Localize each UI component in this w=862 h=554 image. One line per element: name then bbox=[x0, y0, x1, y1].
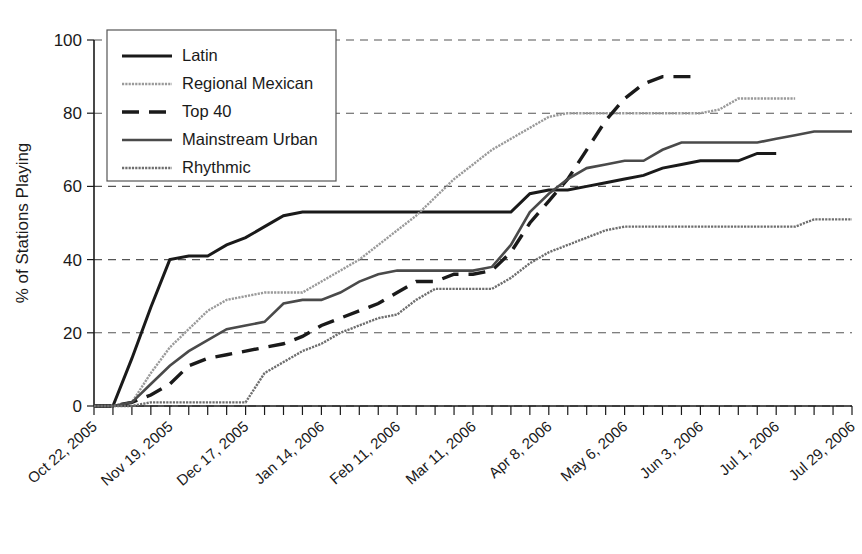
x-tick-label: May 6, 2006 bbox=[557, 417, 630, 484]
legend-label: Rhythmic bbox=[182, 158, 251, 176]
x-tick-label: Jun 3, 2006 bbox=[636, 417, 706, 481]
series-line-rhythmic bbox=[94, 219, 852, 406]
legend-label: Regional Mexican bbox=[182, 74, 313, 92]
x-tick-label: Oct 22, 2005 bbox=[24, 417, 100, 486]
line-chart: 020406080100 Oct 22, 2005Nov 19, 2005Dec… bbox=[0, 0, 862, 554]
y-tick-label: 60 bbox=[63, 177, 82, 196]
series-line-latin bbox=[94, 153, 776, 406]
legend-label: Top 40 bbox=[182, 102, 232, 120]
x-tick-label: Jul 1, 2006 bbox=[716, 417, 783, 478]
chart-container: 020406080100 Oct 22, 2005Nov 19, 2005Dec… bbox=[0, 0, 862, 554]
y-tick-label: 40 bbox=[63, 251, 82, 270]
x-tick-label: Apr 8, 2006 bbox=[485, 417, 555, 481]
x-tick-label: Mar 11, 2006 bbox=[402, 417, 479, 487]
x-tick-label: Nov 19, 2005 bbox=[97, 417, 175, 488]
legend-label: Latin bbox=[182, 46, 218, 64]
legend-label: Mainstream Urban bbox=[182, 130, 318, 148]
y-tick-label: 100 bbox=[54, 31, 82, 50]
y-tick-label: 80 bbox=[63, 104, 82, 123]
chart-legend: LatinRegional MexicanTop 40Mainstream Ur… bbox=[107, 30, 336, 181]
y-tick-labels: 020406080100 bbox=[54, 31, 82, 416]
x-tick-label: Dec 17, 2005 bbox=[173, 417, 251, 488]
y-axis-title: % of Stations Playing bbox=[13, 143, 32, 304]
y-tick-label: 20 bbox=[63, 324, 82, 343]
x-tick-label: Jul 29, 2006 bbox=[785, 417, 858, 483]
x-tick-label: Jan 14, 2006 bbox=[251, 417, 328, 487]
x-tick-label: Feb 11, 2006 bbox=[326, 417, 403, 487]
y-tick-label: 0 bbox=[73, 397, 82, 416]
x-tick-labels: Oct 22, 2005Nov 19, 2005Dec 17, 2005Jan … bbox=[24, 417, 858, 488]
